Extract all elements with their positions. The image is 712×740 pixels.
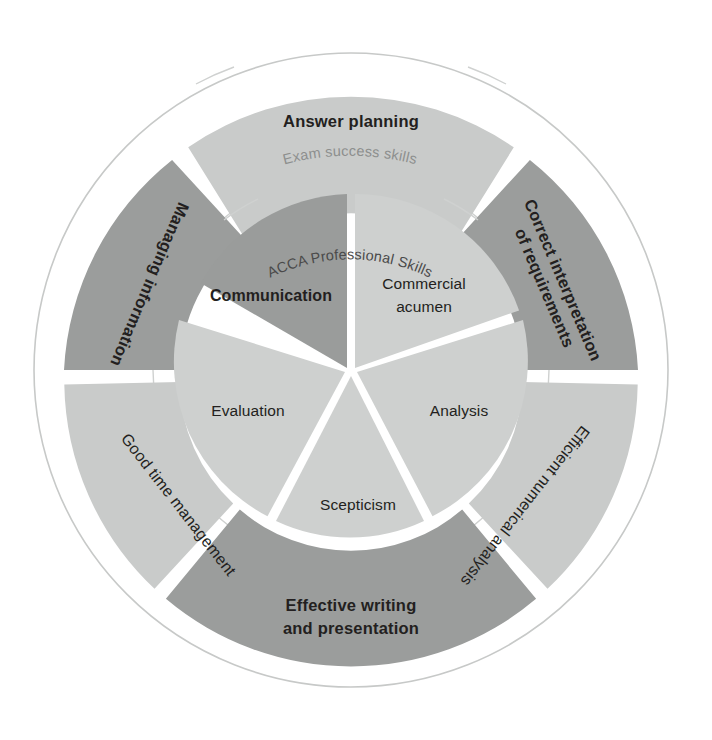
inner-label-evaluation: Evaluation	[211, 402, 284, 419]
svg-text:Commercial: Commercial	[382, 275, 466, 292]
outer-title-tick-left	[196, 67, 234, 84]
svg-text:Effective writing: Effective writing	[286, 596, 417, 614]
inner-label-communication: Communication	[210, 287, 332, 304]
svg-text:and presentation: and presentation	[283, 619, 419, 637]
wheel-svg: Exam success skills ACCA Professional Sk…	[0, 0, 712, 740]
skills-wheel-diagram: Exam success skills ACCA Professional Sk…	[0, 0, 712, 740]
svg-text:acumen: acumen	[396, 298, 452, 315]
outer-label-answer-planning: Answer planning	[283, 112, 419, 130]
inner-label-scepticism: Scepticism	[320, 496, 396, 513]
outer-title-tick-right	[468, 67, 506, 84]
inner-label-analysis: Analysis	[430, 402, 489, 419]
